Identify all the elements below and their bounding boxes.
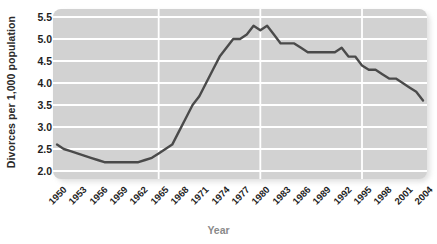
x-axis-title: Year (0, 224, 437, 236)
divorce-rate-line-chart: Divorces per 1,000 population 2.02.53.03… (0, 0, 437, 244)
x-axis-tick-labels: 1950195319561959196219651968197119741977… (0, 0, 437, 244)
